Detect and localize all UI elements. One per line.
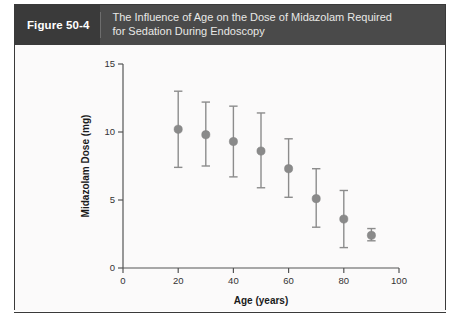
y-axis-title: Midazolam Dose (mg): [80, 115, 91, 218]
chart-plot-area: 051015020406080100Midazolam Dose (mg)Age…: [15, 45, 445, 311]
figure-frame: Figure 50-4 The Influence of Age on the …: [14, 4, 446, 310]
figure-title-line-1: The Influence of Age on the Dose of Mida…: [112, 11, 435, 25]
x-tick-label-100: 100: [391, 275, 407, 286]
x-tick-label-40: 40: [228, 275, 239, 286]
x-axis-title: Age (years): [234, 295, 288, 306]
x-tick-label-60: 60: [283, 275, 294, 286]
data-point-80: [340, 215, 348, 223]
x-tick-label-20: 20: [173, 275, 184, 286]
x-tick-label-80: 80: [339, 275, 350, 286]
data-point-40: [229, 137, 237, 145]
data-point-30: [202, 131, 210, 139]
y-tick-label-5: 5: [110, 194, 115, 205]
figure-title-line-2: for Sedation During Endoscopy: [112, 25, 435, 39]
figure-root: Figure 50-4 The Influence of Age on the …: [0, 0, 459, 324]
figure-header: Figure 50-4 The Influence of Age on the …: [15, 5, 445, 45]
y-tick-label-10: 10: [104, 126, 115, 137]
data-point-20: [174, 125, 182, 133]
data-point-70: [312, 195, 320, 203]
chart-render-group: 051015020406080100Midazolam Dose (mg)Age…: [80, 58, 407, 306]
data-point-90: [367, 231, 375, 239]
y-tick-label-0: 0: [110, 262, 115, 273]
figure-bottom-rule: [14, 312, 446, 313]
data-point-60: [285, 165, 293, 173]
figure-number-label: Figure 50-4: [15, 5, 100, 45]
figure-title: The Influence of Age on the Dose of Mida…: [101, 5, 445, 45]
y-tick-label-15: 15: [104, 58, 115, 69]
scatter-chart-svg: 051015020406080100Midazolam Dose (mg)Age…: [15, 45, 444, 311]
x-tick-label-0: 0: [120, 275, 125, 286]
data-point-50: [257, 147, 265, 155]
